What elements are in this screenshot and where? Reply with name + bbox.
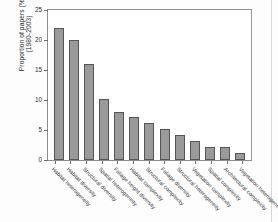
bar (69, 40, 79, 160)
bar (144, 123, 154, 160)
y-tick-label: 10 (35, 96, 42, 103)
bar (220, 147, 230, 160)
bar (129, 117, 139, 160)
y-tick-label: 0 (38, 156, 42, 163)
y-tick-label: 5 (38, 126, 42, 133)
y-axis-title-line2: (1980-2003) (26, 15, 33, 52)
page-edge-line (271, 0, 272, 222)
bar (175, 135, 185, 160)
bar (114, 112, 124, 160)
bar (235, 153, 245, 160)
bar (99, 99, 109, 160)
plot-area: 0510152025 (47, 9, 252, 161)
bar-chart-figure: Proportion of papers (%) (1980-2003) 051… (0, 0, 278, 222)
bar (160, 129, 170, 160)
bar (205, 147, 215, 160)
x-axis-category-labels: Habitat heterogeneityHabitat diversitySt… (47, 164, 252, 222)
y-axis-title: Proportion of papers (%) (1980-2003) (14, 0, 38, 95)
bar-series (48, 10, 251, 160)
bar (190, 141, 200, 160)
bar (84, 64, 94, 160)
bar (54, 28, 64, 160)
